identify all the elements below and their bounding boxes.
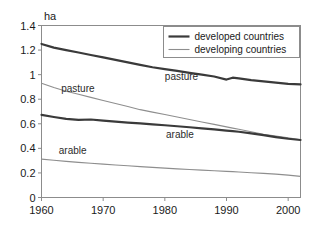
- y-axis-tick-label: 1: [29, 69, 35, 81]
- x-axis-tick-label: 1980: [153, 204, 177, 216]
- legend-label-1: developing countries: [195, 44, 287, 55]
- series-inline-label: pasture: [61, 83, 95, 94]
- series-inline-label: arable: [59, 145, 87, 156]
- y-axis-tick-label: 0.6: [20, 118, 35, 130]
- land-per-capita-line-chart: 00.20.40.60.811.21.4 1960197019801990200…: [0, 0, 315, 230]
- x-axis-tick-label: 1960: [29, 204, 53, 216]
- legend-label-0: developed countries: [195, 31, 285, 42]
- x-axis-tick-label: 1990: [214, 204, 238, 216]
- y-axis-tick-label: 0: [29, 192, 35, 204]
- x-axis-tick-label: 2000: [276, 204, 300, 216]
- chart-legend: developed countriesdeveloping countries: [164, 27, 300, 58]
- y-axis-tick-label: 0.2: [20, 167, 35, 179]
- y-axis-tick-label: 1.2: [20, 44, 35, 56]
- chart-container: 00.20.40.60.811.21.4 1960197019801990200…: [0, 0, 315, 230]
- series-inline-label: pasture: [165, 71, 199, 82]
- y-axis-tick-label: 1.4: [20, 20, 35, 32]
- y-axis-tick-label: 0.4: [20, 142, 35, 154]
- y-axis-title: ha: [44, 10, 57, 22]
- series-inline-label: arable: [166, 129, 194, 140]
- x-axis-tick-label: 1970: [91, 204, 115, 216]
- y-axis-tick-label: 0.8: [20, 93, 35, 105]
